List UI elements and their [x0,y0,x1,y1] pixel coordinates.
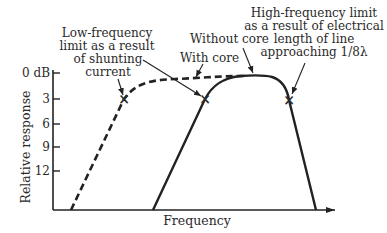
low-freq-line-2: limit as a result [59,39,154,53]
high-freq-line-2: as a result of electrical [244,19,384,33]
y-axis-title: Relative response [18,91,33,204]
frequency-response-diagram: 0 dB 3 6 9 12 Relative response Frequenc… [0,0,387,233]
with-core-curve [71,76,246,210]
x-axis-title: Frequency [163,213,232,228]
low-freq-line-4: current [85,65,131,79]
y-tick-label-6: 6 [42,117,50,131]
low-freq-arrow-2 [143,60,201,96]
y-tick-label-3: 3 [42,92,50,106]
without-core-label: Without core [190,32,269,46]
y-tick-label-9: 9 [42,140,50,154]
with-core-arrow [196,64,203,77]
low-freq-line-1: Low-frequency [62,26,153,40]
low-freq-limit-marker: × [118,91,130,107]
high-freq-annotation: High-frequency limit as a result of elec… [244,6,384,94]
without-core-arrow [243,48,253,73]
core-limit-marker: × [199,91,211,107]
high-freq-limit-marker: × [283,92,295,108]
high-freq-line-1: High-frequency limit [251,6,377,20]
y-tick-label-0: 0 dB [22,66,50,80]
high-freq-line-3: length of line [274,32,355,46]
low-freq-line-3: of shunting [74,52,143,66]
y-tick-label-12: 12 [35,164,50,178]
high-freq-line-4: approaching 1/8λ [260,45,367,59]
high-freq-arrow [292,63,305,94]
with-core-label: With core [180,51,239,65]
